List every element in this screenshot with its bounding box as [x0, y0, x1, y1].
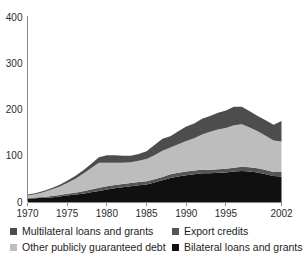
y-tick-label: 0	[17, 197, 23, 208]
y-tick-label: 100	[6, 150, 23, 161]
stacked-area-chart: 0100200300400 19701975198019851990199520…	[0, 0, 305, 258]
x-tick-label: 1975	[56, 208, 79, 219]
y-tick-label: 400	[6, 12, 23, 23]
legend-item-other-publicly-guaranteed-debt: Other publicly guaranteed debt	[0, 239, 172, 255]
chart-series-group	[28, 107, 282, 202]
x-axis-tick-labels: 1970197519801985199019952002	[16, 208, 293, 219]
legend-item-bilateral-loans-and-grants: Bilateral loans and grants	[172, 239, 303, 255]
legend-item-label: Other publicly guaranteed debt	[22, 242, 166, 253]
legend-item-export-credits: Export credits	[172, 223, 248, 239]
legend-swatch-icon	[10, 228, 17, 235]
y-tick-label: 200	[6, 104, 23, 115]
x-tick-label: 1970	[16, 208, 39, 219]
y-tick-label: 300	[6, 58, 23, 69]
legend-item-label: Multilateral loans and grants	[22, 226, 153, 237]
chart-plot-area: 0100200300400 19701975198019851990199520…	[0, 0, 305, 258]
legend-item-label: Export credits	[184, 226, 248, 237]
x-tick-label: 1980	[96, 208, 119, 219]
x-tick-label: 1985	[135, 208, 158, 219]
x-tick-label: 1995	[215, 208, 238, 219]
legend-swatch-icon	[172, 228, 179, 235]
x-tick-label: 2002	[270, 208, 293, 219]
x-tick-label: 1990	[175, 208, 198, 219]
legend-swatch-icon	[172, 244, 179, 251]
y-axis-tick-labels: 0100200300400	[6, 12, 23, 208]
legend-row-1: Multilateral loans and grants Export cre…	[0, 223, 305, 239]
chart-legend: Multilateral loans and grants Export cre…	[0, 223, 305, 258]
legend-row-2: Other publicly guaranteed debt Bilateral…	[0, 239, 305, 255]
legend-item-multilateral-loans-and-grants: Multilateral loans and grants	[0, 223, 172, 239]
legend-item-label: Bilateral loans and grants	[184, 242, 303, 253]
legend-swatch-icon	[10, 244, 17, 251]
